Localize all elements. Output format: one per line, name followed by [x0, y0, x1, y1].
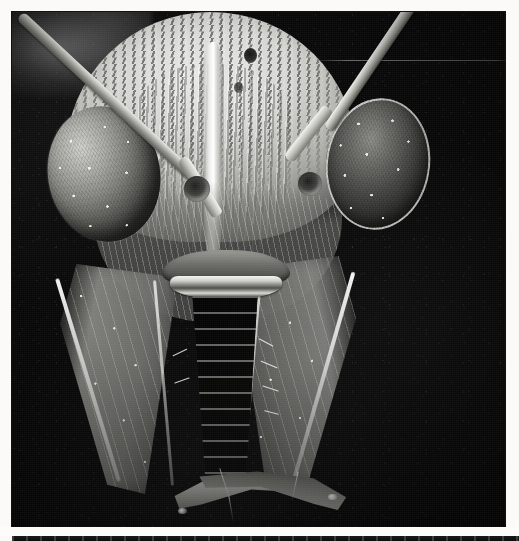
next-micrograph-strip [12, 536, 519, 541]
page-gutter [0, 527, 519, 536]
printed-page [0, 0, 519, 541]
ocellus-pit-secondary [234, 82, 243, 93]
mandible-tip-highlight-left [178, 508, 187, 514]
sem-micrograph-figure [12, 12, 505, 527]
antennal-socket-right [298, 172, 322, 196]
mandible-tip-highlight-right [328, 494, 337, 500]
next-figure-edge-texture [12, 536, 519, 541]
antennal-socket-left [184, 176, 210, 202]
labrum [170, 276, 282, 298]
ocellus-pit [244, 48, 257, 63]
